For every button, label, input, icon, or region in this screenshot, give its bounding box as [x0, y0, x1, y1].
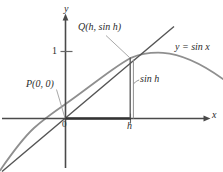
x-axis-label: x	[212, 110, 216, 120]
point-q-label: Q(h, sin h)	[78, 22, 121, 32]
y-axis-label: y	[64, 4, 68, 14]
point-p-label: P(0, 0)	[26, 79, 54, 89]
curve-equation-label: y = sin x	[175, 42, 210, 52]
origin-label: 0	[62, 120, 67, 129]
rise-length-label: sin h	[140, 74, 159, 84]
y-tick-label-1: 1	[52, 46, 57, 56]
sine-secant-figure: y x 1 0 h Q(h, sin h) P(0, 0) sin h y = …	[0, 0, 223, 172]
x-tick-label-h: h	[127, 121, 132, 131]
